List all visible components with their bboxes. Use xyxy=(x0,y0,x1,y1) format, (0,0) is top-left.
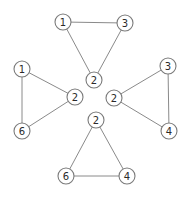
graph-node: 2 xyxy=(106,90,122,106)
triangle-left-nodes: 126 xyxy=(14,61,83,139)
graph-node: 6 xyxy=(58,168,74,184)
graph-node: 2 xyxy=(88,112,104,128)
node-label: 2 xyxy=(111,93,117,104)
node-label: 2 xyxy=(93,115,99,126)
edge xyxy=(66,120,96,176)
node-label: 2 xyxy=(72,92,78,103)
graph-node: 1 xyxy=(14,61,30,77)
node-label: 3 xyxy=(122,18,128,29)
edge xyxy=(96,120,127,176)
node-label: 4 xyxy=(166,126,172,137)
triangle-top-nodes: 132 xyxy=(55,14,133,88)
triangle-bottom-nodes: 264 xyxy=(58,112,135,184)
graph-node: 4 xyxy=(119,168,135,184)
node-label: 3 xyxy=(165,61,171,72)
triangle-right-nodes: 324 xyxy=(106,58,177,139)
triangle-top-edges xyxy=(63,22,125,80)
triangle-graphs-diagram: 132126324264 xyxy=(0,0,193,199)
node-label: 6 xyxy=(63,171,69,182)
edge xyxy=(63,22,94,80)
node-label: 1 xyxy=(19,64,25,75)
edge xyxy=(22,69,75,97)
edge xyxy=(114,98,169,131)
node-label: 4 xyxy=(124,171,130,182)
node-label: 2 xyxy=(91,75,97,86)
edge xyxy=(168,66,169,131)
graph-node: 6 xyxy=(14,123,30,139)
graph-node: 2 xyxy=(67,89,83,105)
graph-node: 1 xyxy=(55,14,71,30)
edge xyxy=(63,22,125,23)
graph-node: 2 xyxy=(86,72,102,88)
edge xyxy=(94,23,125,80)
node-label: 1 xyxy=(60,17,66,28)
nodes-layer: 132126324264 xyxy=(14,14,177,184)
edges-layer xyxy=(22,22,169,176)
graph-node: 3 xyxy=(160,58,176,74)
edge xyxy=(114,66,168,98)
node-label: 6 xyxy=(19,126,25,137)
graph-node: 3 xyxy=(117,15,133,31)
graph-node: 4 xyxy=(161,123,177,139)
edge xyxy=(22,97,75,131)
